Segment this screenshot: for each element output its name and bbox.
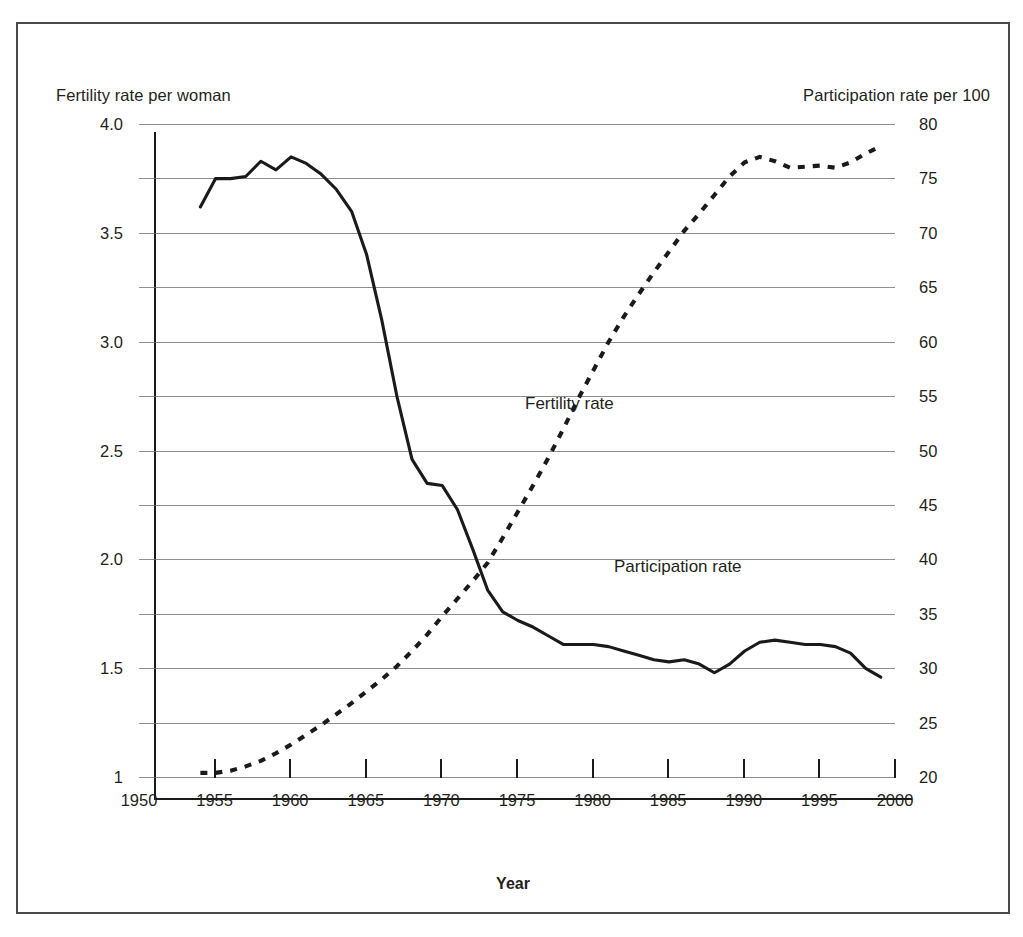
x-axis-title: Year xyxy=(18,875,1008,893)
series-line-participation-rate xyxy=(200,146,880,773)
gridline xyxy=(139,124,895,125)
y-axis-tick-label: 2.5 xyxy=(100,441,123,460)
series-plot xyxy=(155,146,911,799)
y2-axis-tick-label: 75 xyxy=(919,169,937,188)
y2-axis-tick-label: 50 xyxy=(919,441,937,460)
y-axis-tick-label: 1 xyxy=(114,768,123,787)
y-axis-tick-label: 4.0 xyxy=(100,115,123,134)
y2-axis-tick-label: 60 xyxy=(919,332,937,351)
y2-axis-tick-label: 30 xyxy=(919,659,937,678)
y-axis-tick-label: 2.0 xyxy=(100,550,123,569)
x-axis-tick-label: 1950 xyxy=(121,791,158,810)
y2-axis-tick-label: 55 xyxy=(919,387,937,406)
plot-area: Fertility rate Participation rate xyxy=(155,146,911,799)
y2-axis-tick-label: 25 xyxy=(919,713,937,732)
series-label-fertility-rate: Fertility rate xyxy=(525,394,614,414)
right-axis-caption: Participation rate per 100 xyxy=(803,86,990,105)
y-axis-tick-label: 1.5 xyxy=(100,659,123,678)
y2-axis-tick-label: 65 xyxy=(919,278,937,297)
y-axis-tick-label: 3.5 xyxy=(100,223,123,242)
series-label-participation-rate: Participation rate xyxy=(614,557,742,577)
y2-axis-tick-label: 35 xyxy=(919,604,937,623)
y2-axis-tick-label: 20 xyxy=(919,768,937,787)
series-line-fertility-rate xyxy=(200,157,880,677)
y2-axis-tick-label: 70 xyxy=(919,223,937,242)
y2-axis-tick-label: 45 xyxy=(919,495,937,514)
left-axis-caption: Fertility rate per woman xyxy=(56,86,231,105)
y2-axis-tick-label: 80 xyxy=(919,115,937,134)
y-axis-tick-label: 3.0 xyxy=(100,332,123,351)
y2-axis-tick-label: 40 xyxy=(919,550,937,569)
figure-frame: Fertility rate per woman Participation r… xyxy=(16,22,1010,914)
